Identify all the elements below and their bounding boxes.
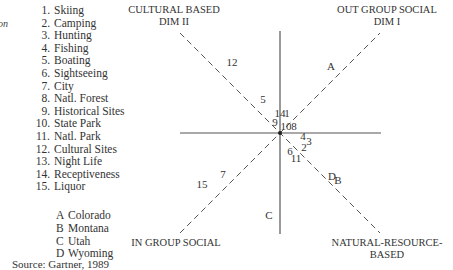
attribute-point-10: 10 <box>281 120 293 132</box>
state-point-A: A <box>327 60 335 72</box>
corner-label-bottom-right: BASED <box>370 249 405 260</box>
attribute-point-8: 8 <box>291 120 297 132</box>
attribute-point-14: 14 <box>275 107 287 119</box>
data-points: 1234567891011121415ABCD <box>197 56 342 221</box>
attribute-point-11: 11 <box>291 152 302 164</box>
corner-label-top-left: CULTURAL BASED <box>128 4 220 15</box>
attribute-point-7: 7 <box>220 168 226 180</box>
attribute-point-3: 3 <box>306 135 312 147</box>
corner-label-top-right: OUT GROUP SOCIAL <box>337 4 437 15</box>
attribute-point-15: 15 <box>197 178 209 190</box>
corner-label-bottom-right: NATURAL-RESOURCE- <box>332 237 443 248</box>
state-point-D: D <box>328 170 336 182</box>
state-point-C: C <box>265 209 272 221</box>
corner-label-bottom-left: IN GROUP SOCIAL <box>131 237 220 248</box>
axes-group <box>180 31 381 234</box>
attribute-point-5: 5 <box>260 93 266 105</box>
attribute-point-4: 4 <box>300 130 306 142</box>
attribute-point-12: 12 <box>227 56 238 68</box>
corner-label-top-left: DIM II <box>159 16 190 27</box>
corner-labels: CULTURAL BASEDDIM IIOUT GROUP SOCIALDIM … <box>128 4 443 260</box>
corner-label-top-right: DIM I <box>374 16 401 27</box>
